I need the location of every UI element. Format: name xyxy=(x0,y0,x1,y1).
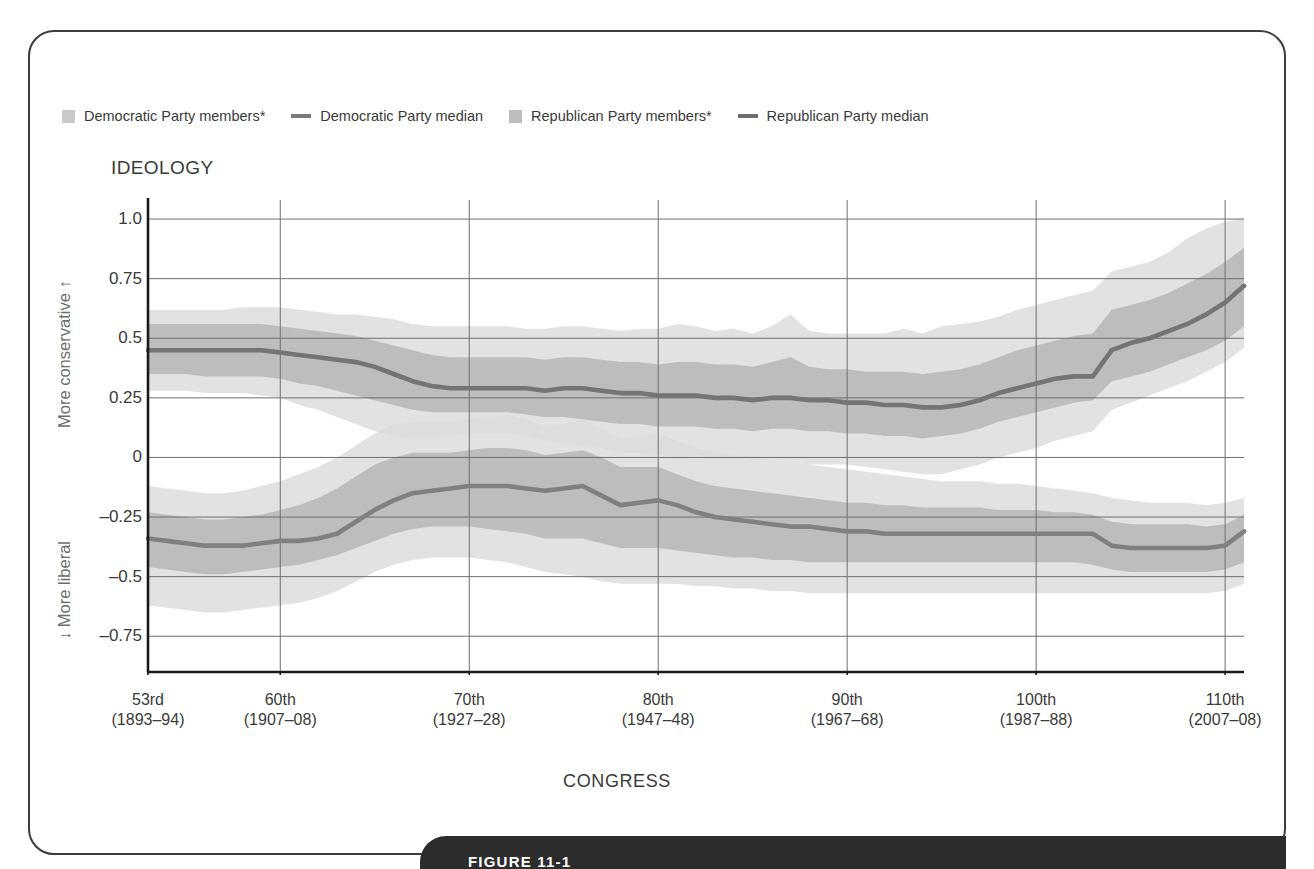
x-axis-title: CONGRESS xyxy=(0,771,1314,792)
x-tick-years: (1927–28) xyxy=(394,710,544,730)
x-tick-congress: 80th xyxy=(583,690,733,710)
x-tick-congress: 90th xyxy=(772,690,922,710)
x-tick-label: 80th(1947–48) xyxy=(583,690,733,730)
figure-caption-bar: FIGURE 11-1 xyxy=(420,836,1286,869)
legend-swatch-rep-members xyxy=(509,110,522,123)
y-tick-label: –0.5 xyxy=(46,567,142,587)
figure-caption-text: FIGURE 11-1 xyxy=(468,853,571,869)
chart-legend: Democratic Party members* Democratic Par… xyxy=(62,108,929,124)
legend-item-dem-median: Democratic Party median xyxy=(291,108,483,124)
y-axis-tick-labels: 1.00.750.50.250–0.25–0.5–0.75 xyxy=(46,0,142,869)
x-tick-label: 70th(1927–28) xyxy=(394,690,544,730)
y-tick-label: –0.25 xyxy=(46,507,142,527)
x-tick-label: 110th(2007–08) xyxy=(1150,690,1300,730)
x-axis-title-text: CONGRESS xyxy=(563,771,671,792)
x-tick-years: (1907–08) xyxy=(205,710,355,730)
y-tick-label: 0.25 xyxy=(46,388,142,408)
y-tick-label: 0.5 xyxy=(46,328,142,348)
x-tick-label: 100th(1987–88) xyxy=(961,690,1111,730)
x-tick-years: (1967–68) xyxy=(772,710,922,730)
x-tick-label: 90th(1967–68) xyxy=(772,690,922,730)
x-tick-congress: 70th xyxy=(394,690,544,710)
legend-label-rep-members: Republican Party members* xyxy=(531,108,712,124)
x-tick-label: 60th(1907–08) xyxy=(205,690,355,730)
x-tick-congress: 53rd xyxy=(73,690,223,710)
x-tick-congress: 60th xyxy=(205,690,355,710)
legend-item-rep-median: Republican Party median xyxy=(738,108,929,124)
x-tick-years: (1947–48) xyxy=(583,710,733,730)
legend-label-rep-median: Republican Party median xyxy=(767,108,929,124)
legend-swatch-dem-median xyxy=(291,114,311,118)
y-tick-label: –0.75 xyxy=(46,626,142,646)
chart-svg xyxy=(145,197,1247,675)
chart-plot-area xyxy=(148,200,1244,672)
legend-item-rep-members: Republican Party members* xyxy=(509,108,712,124)
x-tick-label: 53rd(1893–94) xyxy=(73,690,223,730)
legend-label-dem-median: Democratic Party median xyxy=(320,108,483,124)
x-tick-years: (1987–88) xyxy=(961,710,1111,730)
x-tick-years: (2007–08) xyxy=(1150,710,1300,730)
y-tick-label: 0.75 xyxy=(46,269,142,289)
x-tick-congress: 100th xyxy=(961,690,1111,710)
y-tick-label: 1.0 xyxy=(46,209,142,229)
y-tick-label: 0 xyxy=(46,447,142,467)
x-tick-years: (1893–94) xyxy=(73,710,223,730)
legend-swatch-rep-median xyxy=(738,114,758,118)
x-tick-congress: 110th xyxy=(1150,690,1300,710)
